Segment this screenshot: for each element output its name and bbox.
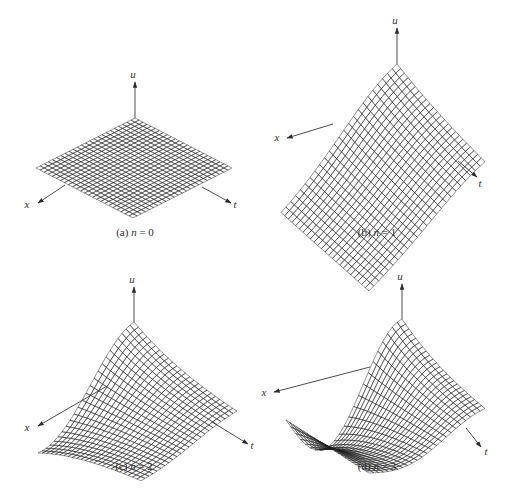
surface-cell: [140, 356, 148, 364]
surface-cell: [158, 187, 166, 191]
surface-cell: [135, 133, 143, 137]
caption-equation: = 2: [138, 460, 152, 472]
surface-cell: [186, 377, 194, 383]
surface-cell: [429, 377, 437, 385]
surface-cell: [109, 178, 117, 182]
surface-cell: [216, 162, 224, 166]
surface-cell: [143, 128, 151, 132]
surface-cell: [162, 404, 170, 411]
surface-cell: [121, 210, 129, 214]
surface-cell: [134, 191, 142, 195]
surface-cell: [462, 143, 471, 151]
surface-cell: [170, 403, 178, 410]
surface-cell: [183, 162, 191, 166]
surface-cell: [89, 156, 97, 160]
surface-cell: [380, 93, 389, 103]
surface-cell: [436, 383, 444, 390]
surface-cell: [138, 172, 146, 176]
surface-cell: [133, 195, 141, 199]
surface-cell: [162, 189, 170, 193]
surface-cell: [405, 133, 414, 143]
surface-cell: [373, 84, 382, 94]
surface-cell: [105, 172, 113, 176]
surface-cell: [192, 417, 200, 423]
surface-cell: [178, 395, 186, 402]
surface-cell: [151, 141, 159, 145]
t-axis-arrow: [458, 161, 477, 177]
surface-cell: [105, 197, 113, 201]
surface-cell: [180, 433, 188, 439]
surface-cell: [155, 143, 163, 147]
surface-cell: [158, 195, 166, 199]
surface-cell: [422, 130, 431, 139]
surface-cell: [159, 421, 167, 427]
surface-cell: [343, 263, 352, 271]
surface-cell: [69, 158, 77, 162]
surface-cell: [469, 151, 478, 159]
u-axis-label: u: [397, 270, 403, 282]
surface-cell: [199, 174, 207, 178]
surface-cell: [122, 172, 130, 176]
surface-cell: [173, 372, 181, 379]
surface-cell: [358, 276, 367, 284]
surface-cell: [216, 166, 224, 170]
surface-cell: [417, 354, 425, 362]
surface-cell: [132, 373, 140, 382]
surface-cell: [192, 149, 200, 153]
surface-cell: [118, 174, 126, 178]
surface-cell: [121, 206, 129, 210]
surface-cell: [97, 160, 105, 164]
surface-cell: [93, 158, 101, 162]
surface-cell: [325, 247, 334, 255]
surface-cell: [421, 203, 430, 212]
surface-cell: [130, 330, 138, 339]
surface-cell: [212, 172, 220, 176]
surface-cell: [353, 253, 362, 261]
surface-cell: [97, 176, 105, 180]
surface-cell: [174, 392, 182, 399]
surface-cell: [114, 126, 122, 130]
surface-cell: [69, 166, 77, 170]
surface-cell: [93, 170, 101, 174]
surface-cell: [419, 117, 428, 126]
surface-cell: [162, 197, 170, 201]
surface-cell: [167, 162, 175, 166]
surface-cell: [93, 174, 101, 178]
surface-cell: [424, 362, 432, 369]
surface-cell: [152, 457, 160, 462]
surface-cell: [436, 116, 445, 125]
surface-cell: [468, 405, 476, 411]
surface-cell: [195, 389, 203, 395]
surface-cell: [113, 201, 121, 205]
surface-cell: [48, 168, 56, 172]
surface-cell: [97, 172, 105, 176]
surface-cell: [366, 148, 375, 159]
surface-cell: [131, 118, 139, 122]
surface-cell: [58, 437, 66, 442]
surface-cell: [410, 127, 419, 137]
surface-cell: [158, 174, 166, 178]
surface-cell: [162, 185, 170, 189]
surface-cell: [69, 149, 77, 153]
surface-cell: [150, 199, 158, 203]
surface-cell: [153, 375, 161, 383]
surface-cell: [143, 149, 151, 153]
surface-cell: [428, 116, 437, 125]
surface-cell: [415, 362, 423, 371]
surface-cell: [431, 120, 440, 129]
surface-cell: [146, 406, 154, 413]
surface-cell: [130, 160, 138, 164]
surface-cell: [466, 147, 475, 155]
surface-cell: [395, 144, 404, 154]
surface-cell: [179, 168, 187, 172]
surface-cell: [166, 183, 174, 187]
surface-cell: [156, 350, 164, 357]
surface-cell: [195, 172, 203, 176]
surface-cell: [199, 178, 207, 182]
surface-cell: [118, 153, 126, 157]
surface-cell: [115, 359, 123, 369]
surface-cell: [142, 425, 150, 431]
surface-cell: [50, 445, 58, 449]
surface-cell: [142, 174, 150, 178]
surface-cell: [412, 358, 420, 367]
